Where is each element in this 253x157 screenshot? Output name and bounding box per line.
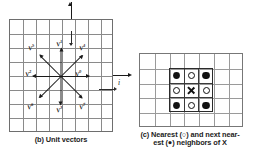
nearest-neighbor-cell — [184, 68, 199, 83]
nearest-neighbor-cell — [184, 98, 199, 113]
filled-circle-icon — [203, 73, 209, 79]
unit-vector-arrow-5 — [39, 54, 61, 76]
axis-i-inner-arrowhead — [114, 87, 117, 91]
axis-i-arrowhead — [128, 73, 132, 77]
nearest-neighbor-cell — [199, 83, 214, 98]
unit-vector-arrows: V0V1V2V3V4V5V6V7 — [9, 19, 113, 132]
filled-circle-icon — [203, 103, 209, 109]
open-circle-icon — [188, 102, 195, 109]
nearest-neighbor-cell — [169, 83, 184, 98]
unit-vector-label-4: V4 — [79, 43, 86, 52]
x-icon — [187, 86, 196, 95]
arrowhead-icon — [78, 53, 84, 59]
open-circle-icon — [173, 87, 180, 94]
panel-b-caption: (b) Unit vectors — [4, 136, 118, 144]
unit-vector-arrow-3 — [61, 76, 62, 104]
unit-vector-label-3: V3 — [56, 105, 63, 114]
panel-c-caption: (c) Nearest (○) and next near- est (●) n… — [127, 131, 253, 148]
axis-i-inner-line — [99, 89, 115, 90]
panel-c-caption-line2: est (●) neighbors of X — [127, 139, 253, 147]
arrowhead-icon — [86, 74, 90, 78]
unit-vector-label-2: V2 — [25, 69, 32, 78]
arrowhead-icon — [59, 48, 63, 52]
axis-j-inner-arrowhead — [69, 43, 73, 46]
figure-root: V0V1V2V3V4V5V6V7 j i (b) Unit vectors — [0, 0, 253, 157]
filled-circle-icon — [174, 103, 180, 109]
unit-vector-label-0: V0 — [75, 69, 82, 78]
unit-vector-label-6: V6 — [27, 102, 34, 111]
arrowhead-icon — [33, 74, 37, 78]
arrowhead-icon — [78, 93, 84, 99]
axis-i-label: i — [118, 78, 120, 87]
next-nearest-neighbor-cell — [169, 98, 184, 113]
axis-j-arrowhead — [68, 2, 72, 6]
next-nearest-neighbor-cell — [199, 98, 214, 113]
next-nearest-neighbor-cell — [169, 68, 184, 83]
panel-neighbors — [139, 53, 243, 127]
unit-vector-arrow-2 — [33, 76, 61, 77]
next-nearest-neighbor-cell — [199, 68, 214, 83]
unit-vector-arrow-6 — [39, 76, 61, 98]
unit-vector-arrow-7 — [61, 76, 83, 98]
open-circle-icon — [203, 87, 210, 94]
panel-unit-vectors: V0V1V2V3V4V5V6V7 j i — [9, 19, 113, 132]
open-circle-icon — [188, 72, 195, 79]
unit-vector-label-1: V1 — [56, 39, 63, 48]
filled-circle-icon — [174, 73, 180, 79]
unit-vector-arrow-1 — [61, 48, 62, 76]
center-x-icon — [184, 83, 199, 98]
arrowhead-icon — [38, 93, 44, 99]
neighborhood-box — [169, 68, 214, 112]
unit-vector-label-7: V7 — [79, 102, 86, 111]
arrowhead-icon — [38, 53, 44, 59]
unit-vector-label-5: V5 — [28, 43, 35, 52]
